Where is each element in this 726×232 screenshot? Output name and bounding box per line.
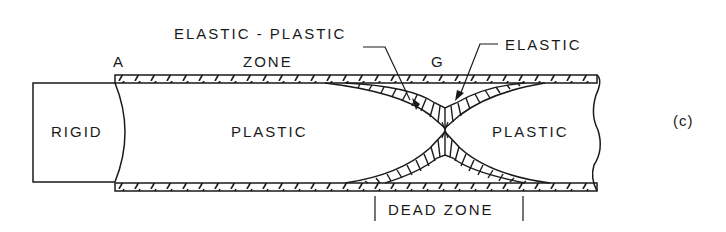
label-elastic-plastic-zone-line1: ELASTIC - PLASTIC: [174, 26, 346, 41]
bottom-wall: [115, 183, 597, 191]
leader-elastic-plastic: [363, 47, 410, 100]
top-wall: [115, 75, 597, 83]
label-plastic-left: PLASTIC: [231, 124, 308, 139]
label-elastic-plastic-zone-line2: ZONE: [243, 54, 293, 69]
extrusion-diagram: [0, 0, 726, 232]
label-rigid: RIGID: [51, 124, 103, 139]
panel-label: (c): [673, 113, 694, 128]
label-point-g: G: [431, 54, 445, 69]
label-point-a: A: [113, 54, 125, 69]
label-dead-zone: DEAD ZONE: [388, 202, 494, 217]
label-plastic-right: PLASTIC: [492, 124, 569, 139]
label-elastic: ELASTIC: [505, 37, 582, 52]
leader-elastic: [455, 44, 498, 101]
break-line-right: [593, 75, 601, 191]
elastic-plastic-zone-top: [325, 83, 545, 128]
